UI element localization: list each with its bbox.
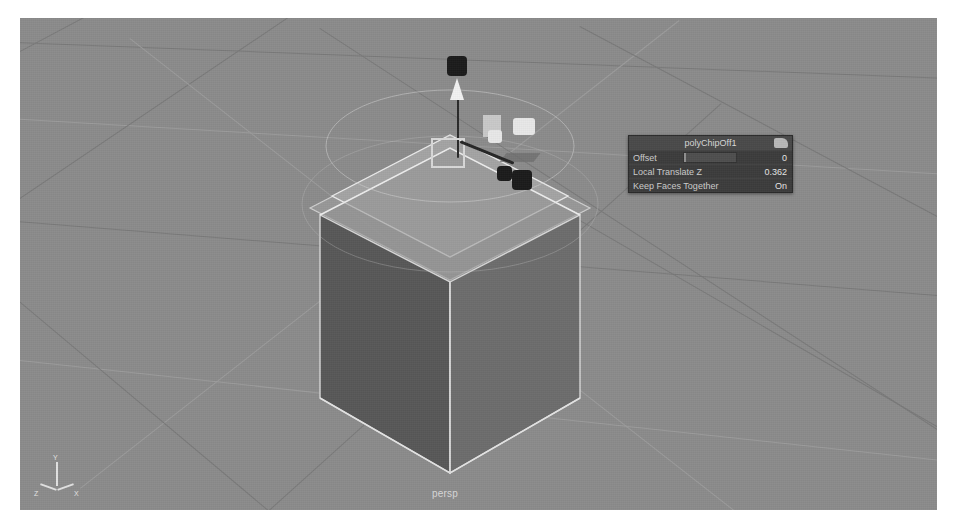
screen-root: persp Y Z X polyChipOff1 Offset 0 Local …	[0, 0, 955, 531]
tool-row-keep-faces-together[interactable]: Keep Faces Together On	[629, 178, 792, 192]
x-axis-cap-handle[interactable]	[512, 170, 532, 190]
tool-row-local-translate-z-label: Local Translate Z	[633, 167, 741, 177]
in-view-editor-panel[interactable]: polyChipOff1 Offset 0 Local Translate Z …	[628, 135, 793, 193]
tool-row-offset[interactable]: Offset 0	[629, 150, 792, 164]
tool-panel-header[interactable]: polyChipOff1	[629, 136, 792, 150]
tool-row-local-translate-z-value[interactable]: 0.362	[741, 167, 787, 177]
z-axis-cap-handle[interactable]	[497, 166, 512, 181]
tool-panel-title: polyChipOff1	[685, 136, 737, 150]
perspective-viewport[interactable]: persp Y Z X polyChipOff1 Offset 0 Local …	[20, 18, 937, 510]
axis-orientation-gizmo[interactable]: Y Z X	[34, 456, 82, 502]
polygon-cube-object[interactable]	[20, 18, 937, 510]
camera-label: persp	[432, 488, 458, 499]
tool-row-local-translate-z[interactable]: Local Translate Z 0.362	[629, 164, 792, 178]
axis-label-x: X	[74, 490, 79, 497]
tool-row-offset-value[interactable]: 0	[741, 153, 787, 163]
tool-row-offset-slider[interactable]	[683, 152, 737, 163]
tool-row-keep-faces-together-label: Keep Faces Together	[633, 181, 741, 191]
panel-menu-icon[interactable]	[774, 138, 788, 148]
plane-chip-handle-2[interactable]	[488, 130, 502, 143]
plane-chip-handle-3[interactable]	[513, 118, 535, 135]
axis-label-y: Y	[53, 454, 58, 461]
tool-row-offset-label: Offset	[633, 153, 683, 163]
y-axis-cap-handle[interactable]	[447, 56, 467, 76]
tool-row-keep-faces-together-value[interactable]: On	[741, 181, 787, 191]
y-axis-arrow-handle[interactable]	[450, 78, 464, 100]
axis-label-z: Z	[34, 490, 38, 497]
